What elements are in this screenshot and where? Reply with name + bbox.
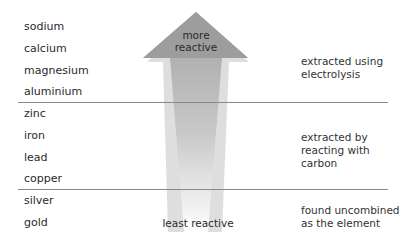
metal-copper: copper [24, 172, 62, 185]
group-carbon: extracted by reacting with carbon [301, 131, 370, 170]
metal-lead: lead [24, 151, 48, 164]
metal-silver: silver [24, 194, 54, 207]
arrow-bottom-label: least reactive [150, 217, 246, 229]
metal-iron: iron [24, 129, 45, 142]
group-line: reacting with [301, 144, 370, 157]
more-text: more [166, 29, 226, 41]
group-line: found uncombined [301, 204, 400, 217]
arrow-top-label: more reactive [166, 29, 226, 53]
group-electrolysis: extracted using electrolysis [301, 55, 383, 81]
metal-calcium: calcium [24, 42, 67, 55]
divider-2 [18, 189, 388, 190]
metal-zinc: zinc [24, 107, 46, 120]
group-line: extracted using [301, 55, 383, 68]
metal-magnesium: magnesium [24, 64, 89, 77]
group-line: carbon [301, 157, 370, 170]
reactive-text: reactive [166, 41, 226, 53]
divider-1 [18, 102, 388, 103]
group-line: extracted by [301, 131, 370, 144]
metal-aluminium: aluminium [24, 85, 82, 98]
metal-gold: gold [24, 216, 48, 229]
metal-sodium: sodium [24, 20, 64, 33]
group-uncombined: found uncombined as the element [301, 204, 400, 230]
group-line: as the element [301, 217, 400, 230]
group-line: electrolysis [301, 68, 383, 81]
